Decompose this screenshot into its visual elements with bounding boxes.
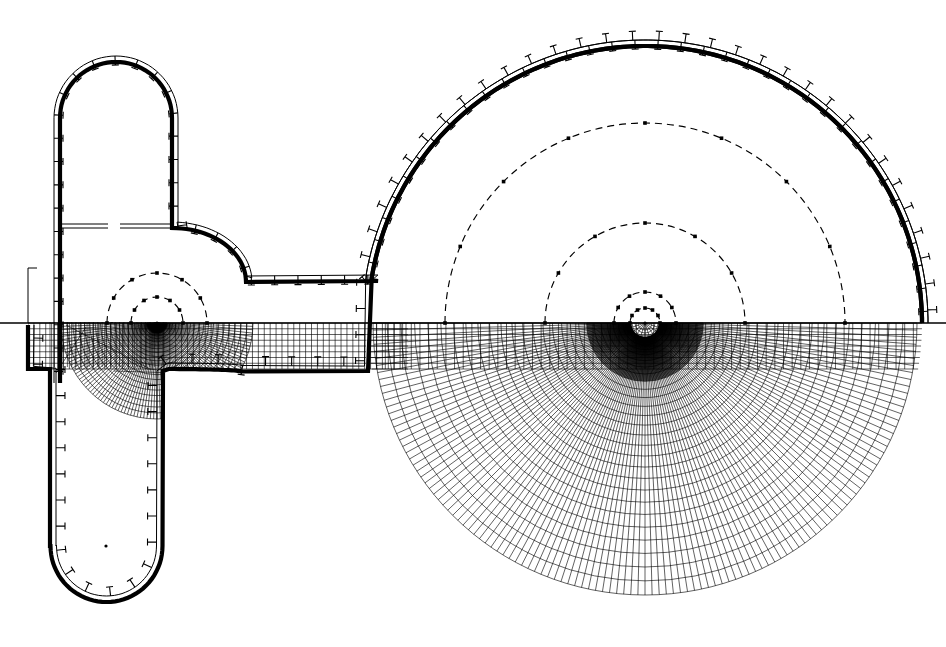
equipotential-node (502, 180, 506, 184)
equipotential-node (636, 308, 640, 312)
boundary-lower-flange-tick (66, 567, 75, 575)
equipotential-node (133, 308, 137, 312)
equipotential-node (567, 136, 571, 140)
boundary-lower-flange-tick (148, 512, 157, 519)
equipotential-node (168, 299, 172, 303)
equipotential-node (130, 278, 134, 282)
equipotential-node (656, 314, 660, 318)
clip-below-leg (0, 606, 362, 647)
equipotential-node (628, 294, 632, 298)
boundary-lower-flange-tick (148, 434, 157, 441)
boundary-lower-flange-tick (85, 582, 92, 592)
figure-canvas (0, 0, 946, 647)
boundary-lower-flange-tick (356, 331, 365, 338)
equipotential-node (643, 306, 647, 310)
conformal-mesh-diagram (0, 0, 946, 647)
boundary-lower-flange-tick (56, 470, 65, 477)
boundary-lower-flange-tick (142, 561, 152, 568)
shaft-toe-center (104, 544, 107, 547)
equipotential-node (593, 235, 597, 239)
boundary-lower-flange-tick (56, 497, 65, 504)
equipotential-node (458, 245, 462, 249)
boundary-lower-flange-tick (148, 539, 157, 546)
clip-left-outside (0, 370, 49, 647)
equipotential-node (155, 295, 159, 299)
equipotential-node (630, 314, 634, 318)
equipotential-node (643, 121, 647, 125)
boundary-lower-flange-tick (262, 357, 269, 366)
equipotential-node (616, 306, 620, 310)
equipotential-node (180, 278, 184, 282)
boundary-lower-flange-tick (288, 357, 295, 366)
boundary-lower-flange-tick (56, 392, 65, 399)
equipotential-node (720, 136, 724, 140)
equipotential-node (659, 294, 663, 298)
equipotential-node (142, 299, 146, 303)
clip-band-left-stub (0, 321, 28, 371)
boundary-lower-flange-tick (56, 418, 65, 425)
boundary-lower-flange-tick (127, 578, 135, 587)
boundary-lower-flange-tick (34, 335, 43, 342)
main-chamber-center (643, 321, 646, 324)
boundary-lower-flange-tick (148, 408, 157, 415)
boundary-lower-flange-tick (56, 444, 65, 451)
equipotential-node (155, 271, 159, 275)
boundary-lower-flange-tick (148, 460, 157, 467)
equipotential-node (828, 245, 832, 249)
equipotential-node (643, 221, 647, 225)
duct-elbow-center (155, 321, 158, 324)
boundary-lower-flange-tick (340, 357, 347, 366)
boundary-lower-flange-tick (314, 357, 321, 366)
equipotential-node (112, 296, 116, 300)
equipotential-node (785, 180, 789, 184)
equipotential-node (670, 306, 674, 310)
equipotential-node (651, 308, 655, 312)
clip-mid-outside (164, 370, 362, 647)
equipotential-node (199, 296, 203, 300)
boundary-lower-flange-tick (56, 523, 65, 530)
equipotential-node (557, 271, 561, 275)
equipotential-node (730, 271, 734, 275)
equipotential-node (693, 235, 697, 239)
boundary-lower-flange-tick (106, 586, 113, 595)
boundary-lower-flange-tick (57, 546, 66, 553)
clip-upper-half (0, 0, 946, 322)
equipotential-node (178, 308, 182, 312)
boundary-lower-flange-tick (148, 486, 157, 493)
equipotential-node (643, 290, 647, 294)
